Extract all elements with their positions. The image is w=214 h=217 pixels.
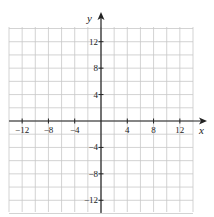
x-tick-label: 8 (151, 125, 156, 135)
y-tick-label: −4 (88, 142, 98, 152)
y-tick-label: 8 (94, 63, 99, 73)
y-tick-label: 4 (94, 90, 99, 100)
coordinate-plane: −12−8−448121284−4−8−12 x y (0, 0, 214, 217)
y-tick-label: −8 (88, 169, 98, 179)
y-tick-label: 12 (89, 37, 98, 47)
axes (9, 12, 207, 213)
y-axis-label: y (86, 12, 92, 24)
x-tick-label: 4 (125, 125, 130, 135)
x-tick-label: 12 (175, 125, 184, 135)
x-axis-label: x (198, 124, 204, 136)
y-tick-label: −12 (84, 195, 98, 205)
x-tick-label: −12 (15, 125, 29, 135)
x-tick-label: −8 (44, 125, 54, 135)
x-tick-label: −4 (70, 125, 80, 135)
